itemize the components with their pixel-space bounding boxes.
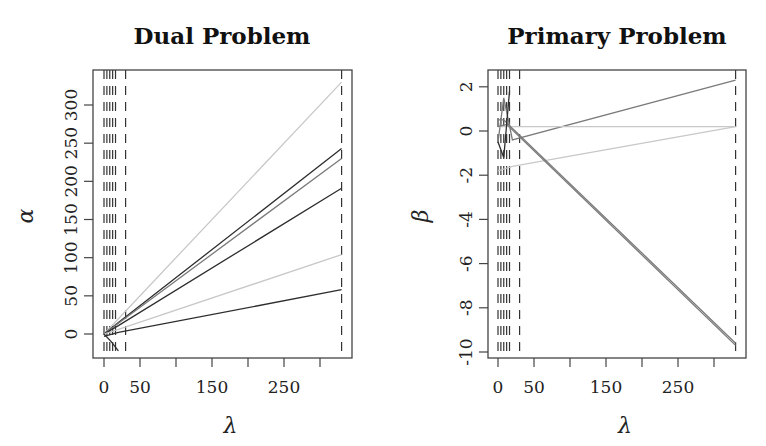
x-tick-label: 0 [99,377,110,397]
y-tick-label: 50 [61,285,81,307]
x-tick-label: 0 [493,377,504,397]
y-axis-label: α [13,208,38,223]
y-tick-label: 0 [456,126,476,137]
x-axis-label: λ [617,413,632,438]
plot-frame [488,70,746,358]
y-tick-label: 100 [61,241,81,273]
series-line-beta5 [498,124,736,345]
primary-problem-panel: Primary Problem 05015025020-2-4-6-8-10λβ [383,0,766,446]
series-line-path5 [104,255,342,334]
dual-problem-plot: 050150250050100150200250300λα [0,0,383,446]
series-line-path7 [104,334,118,351]
x-axis-label: λ [223,413,238,438]
x-tick-label: 150 [590,377,622,397]
y-tick-label: -6 [456,255,476,272]
y-tick-label: 2 [456,81,476,92]
y-tick-label: 250 [61,127,81,159]
y-tick-label: -4 [456,211,476,228]
x-tick-label: 50 [129,377,151,397]
y-tick-label: -2 [456,167,476,184]
x-tick-label: 50 [523,377,545,397]
y-tick-label: 200 [61,165,81,197]
y-tick-label: 0 [61,329,81,340]
y-tick-label: 150 [61,203,81,235]
y-axis-label: β [408,210,433,224]
x-tick-label: 250 [268,377,300,397]
series-line-path3 [104,158,342,334]
x-tick-label: 150 [196,377,228,397]
primary-problem-plot: 05015025020-2-4-6-8-10λβ [383,0,766,446]
y-tick-label: 300 [61,89,81,121]
series-line-path2 [104,149,342,334]
dual-problem-panel: Dual Problem 050150250050100150200250300… [0,0,383,446]
y-tick-label: -8 [456,300,476,317]
x-tick-label: 250 [662,377,694,397]
y-tick-label: -10 [456,338,476,365]
